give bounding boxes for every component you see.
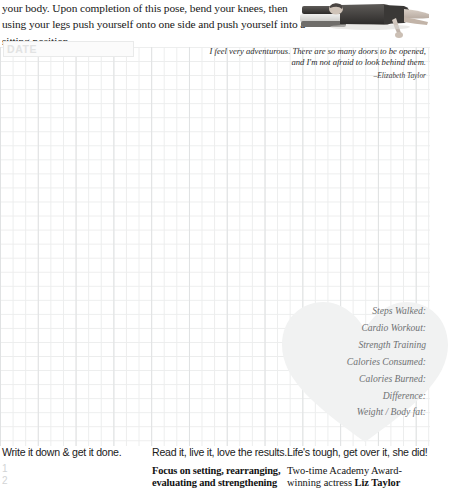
list-item: 1 (2, 463, 150, 475)
quote-block: I feel very adventurous. There are so ma… (204, 46, 426, 81)
footer-sections: Write it down & get it done. 1 2 Read it… (0, 446, 430, 493)
fitness-tracker-labels: Steps Walked: Cardio Workout: Strength T… (250, 303, 426, 421)
quote-text: I feel very adventurous. There are so ma… (204, 46, 426, 69)
footer-body: Two-time Academy Award- winning actress … (287, 465, 430, 489)
date-label: DATE (7, 43, 37, 55)
tracker-row: Calories Burned: (250, 371, 426, 388)
footer-heading: Write it down & get it done. (2, 446, 150, 459)
tracker-row: Steps Walked: (250, 303, 426, 320)
exercise-pose-photo (300, 0, 430, 42)
footer-body: Focus on setting, rearranging, evaluatin… (152, 465, 284, 489)
footer-column-lifes-tough: Life's tough, get over it, she did! Two-… (287, 446, 430, 489)
numbered-list[interactable]: 1 2 (2, 463, 150, 488)
tracker-row: Weight / Body fat: (250, 404, 426, 421)
quote-attribution: –Elizabeth Taylor (204, 70, 426, 81)
footer-body-line2-prefix: winning actress (287, 477, 355, 488)
footer-body-line1: Focus on setting, rearranging, (152, 465, 280, 476)
tracker-row: Calories Consumed: (250, 354, 426, 371)
celebrity-name: Liz Taylor (355, 477, 401, 488)
footer-column-read-it-live-it: Read it, live it, love the results. Focu… (152, 446, 284, 489)
tracker-row: Strength Training (250, 337, 426, 354)
footer-heading: Life's tough, get over it, she did! (287, 446, 430, 459)
footer-body-line1: Two-time Academy Award- (287, 465, 402, 476)
footer-body-line2: evaluating and strengthening (152, 477, 277, 488)
tracker-row: Cardio Workout: (250, 320, 426, 337)
footer-column-write-it-down: Write it down & get it done. 1 2 (2, 446, 150, 488)
list-item: 2 (2, 475, 150, 487)
tracker-row: Difference: (250, 388, 426, 405)
footer-heading: Read it, live it, love the results. (152, 446, 284, 459)
